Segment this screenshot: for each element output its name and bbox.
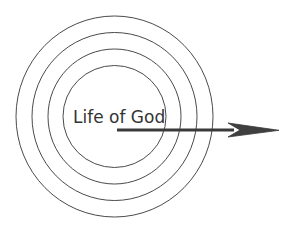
center-label: Life of God [73,107,165,127]
arrow-head [228,123,279,137]
concentric-circles-diagram: Life of God [0,0,294,231]
